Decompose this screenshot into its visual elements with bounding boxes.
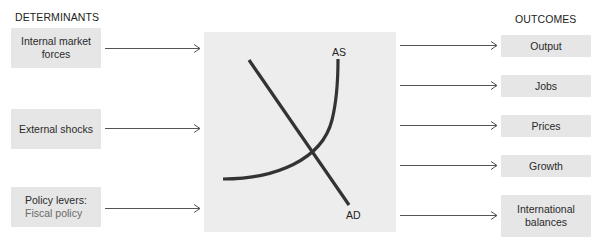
arrow-right-icon <box>400 212 497 220</box>
arrow-right-icon <box>400 82 497 90</box>
arrow-right-icon <box>400 42 497 50</box>
ad-curve-label: AD <box>346 209 361 221</box>
ad-curve <box>249 60 349 205</box>
arrow-right-icon <box>105 45 200 53</box>
arrow-right-icon <box>105 125 200 133</box>
arrow-right-icon <box>105 205 200 213</box>
arrow-right-icon <box>400 162 497 170</box>
diagram-lines <box>0 0 601 245</box>
as-curve-label: AS <box>332 46 346 58</box>
as-curve <box>223 59 338 179</box>
arrow-right-icon <box>400 122 497 130</box>
